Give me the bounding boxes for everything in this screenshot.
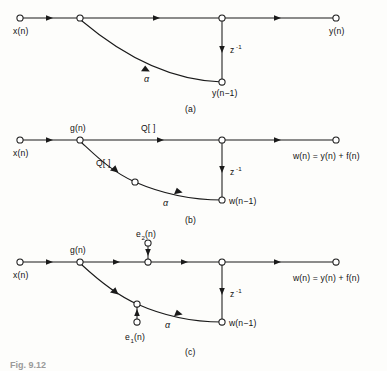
panel-a-output-label: y(n) (329, 26, 344, 36)
panel-a-delay-label: z (230, 45, 234, 55)
panel-a-branch-node (77, 15, 83, 21)
arrowhead-icon (46, 15, 53, 21)
panel-c-e2-adder-node (145, 259, 151, 265)
arrowhead-icon (46, 259, 53, 265)
panel-a-delay-state-node (219, 79, 225, 85)
panel-c-branch-node (77, 259, 83, 265)
panel-b-gain-label: α (163, 198, 169, 208)
panel-c-delay-exponent: -1 (236, 287, 242, 294)
arrowhead-icon (153, 15, 160, 21)
figure-caption: Fig. 9.12 (10, 360, 46, 371)
panel-c-output-label: w(n) = y(n) + f(n) (292, 273, 360, 283)
arrowhead-icon (181, 259, 188, 265)
panel-c-e1-adder-node (134, 301, 140, 307)
panel-c-node-label: g(n) (70, 245, 86, 255)
signal-flow-graph-svg: x(n) y(n) z -1 y(n−1) α (a) (0, 0, 387, 371)
arrowhead-icon (145, 249, 151, 256)
arrowhead-icon (274, 137, 281, 143)
arrowhead-icon (110, 165, 118, 172)
panel-b-node-label: g(n) (70, 123, 86, 133)
panel-c-summing-node (219, 259, 225, 265)
panel-a: x(n) y(n) z -1 y(n−1) α (a) (13, 15, 344, 114)
panel-b-delay-state-label: w(n−1) (228, 196, 256, 206)
panel-b: x(n) g(n) Q[ ] Q[ ] w(n) = y(n) + f(n) z… (13, 123, 360, 225)
arrowhead-icon (219, 288, 225, 295)
panel-c-e1-suffix: (n) (134, 332, 145, 342)
arrowhead-icon (46, 137, 53, 143)
arrowhead-icon (274, 15, 281, 21)
panel-a-delay-exponent: -1 (236, 43, 242, 50)
panel-b-input-label: x(n) (13, 148, 28, 158)
panel-b-output-label: w(n) = y(n) + f(n) (292, 151, 360, 161)
panel-a-summing-node (219, 15, 225, 21)
panel-a-input-node (17, 15, 23, 21)
panel-a-output-node (333, 15, 339, 21)
arrowhead-icon (174, 188, 183, 194)
panel-c-delay-label: z (230, 289, 234, 299)
panel-a-gain-label: α (144, 74, 150, 84)
panel-c-e1-label: e (125, 332, 130, 342)
panel-c-delay-state-label: w(n−1) (228, 318, 256, 328)
panel-b-output-node (333, 137, 339, 143)
arrowhead-icon (274, 259, 281, 265)
arrowhead-icon (174, 310, 183, 316)
panel-a-feedback-path (82, 21, 222, 82)
panel-b-delay-exponent: -1 (236, 165, 242, 172)
panel-c: x(n) g(n) w(n) = y(n) + f(n) z -1 w(n−1)… (13, 229, 360, 357)
panel-c-caption: (c) (185, 347, 195, 357)
panel-a-caption: (a) (185, 104, 196, 114)
panel-a-delay-state-label: y(n−1) (212, 88, 238, 98)
panel-b-input-node (17, 137, 23, 143)
arrowhead-icon (219, 46, 225, 53)
panel-c-gain-label: α (165, 320, 171, 330)
panel-b-delay-state-node (219, 197, 225, 203)
panel-b-feedback-quantizer-label: Q[ ] (96, 158, 110, 168)
panel-b-summing-node (219, 137, 225, 143)
panel-b-caption: (b) (185, 215, 196, 225)
arrowhead-icon (113, 259, 120, 265)
figure-container: x(n) y(n) z -1 y(n−1) α (a) (0, 0, 387, 371)
arrowhead-icon (110, 287, 118, 294)
panel-b-forward-quantizer-label: Q[ ] (141, 123, 155, 133)
panel-c-e1-source-node (134, 319, 140, 325)
panel-c-delay-state-node (219, 319, 225, 325)
panel-c-e2-suffix: (n) (145, 229, 156, 239)
panel-b-feedback-path (82, 143, 222, 200)
panel-b-branch-node (77, 137, 83, 143)
panel-b-feedback-quantizer-node (132, 179, 138, 185)
panel-a-input-label: x(n) (13, 26, 28, 36)
arrowhead-icon (219, 166, 225, 173)
panel-c-input-label: x(n) (13, 270, 28, 280)
panel-c-e2-label: e (136, 229, 141, 239)
panel-c-output-node (333, 259, 339, 265)
panel-c-feedback-path (82, 265, 222, 322)
arrowhead-icon (134, 309, 140, 316)
panel-c-input-node (17, 259, 23, 265)
arrowhead-icon (141, 65, 150, 71)
panel-c-e2-source-node (145, 240, 151, 246)
arrowhead-icon (157, 137, 164, 143)
panel-b-delay-label: z (230, 167, 234, 177)
